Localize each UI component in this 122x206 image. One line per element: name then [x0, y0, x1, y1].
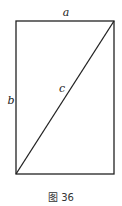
label-a: a [63, 6, 70, 19]
rectangle-diagram: a b c [0, 0, 122, 206]
label-c: c [59, 82, 65, 95]
figure-caption: 图 36 [0, 189, 122, 204]
label-b: b [7, 94, 14, 107]
diagonal-line [16, 21, 114, 174]
